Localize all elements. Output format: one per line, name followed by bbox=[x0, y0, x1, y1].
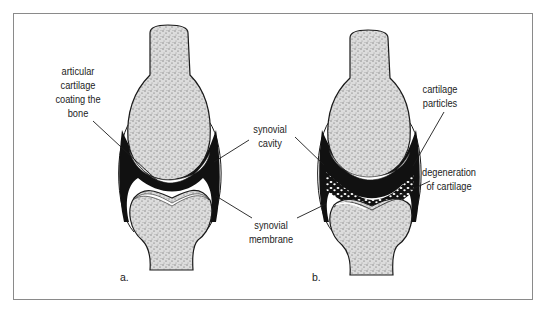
label-line: cartilage bbox=[50, 78, 106, 92]
label-line: synovial bbox=[242, 122, 298, 136]
joint-a bbox=[117, 25, 221, 270]
label-synovial-membrane: synovial membrane bbox=[240, 218, 302, 246]
label-line: articular bbox=[50, 64, 106, 78]
leader-cartilage-particles bbox=[413, 112, 444, 166]
upper-bone-a bbox=[128, 25, 211, 180]
joint-b bbox=[318, 30, 422, 275]
label-line: cavity bbox=[242, 136, 298, 150]
label-line: membrane bbox=[240, 232, 302, 246]
label-cartilage-particles: cartilage particles bbox=[412, 82, 468, 110]
label-line: particles bbox=[412, 96, 468, 110]
label-line: degeneration bbox=[411, 165, 487, 179]
label-line: cartilage bbox=[412, 82, 468, 96]
leader-synovial-membrane-a bbox=[216, 196, 252, 218]
panel-letter-b: b. bbox=[312, 271, 321, 283]
label-articular-cartilage: articular cartilage coating the bone bbox=[50, 64, 106, 120]
upper-bone-b bbox=[328, 30, 411, 178]
label-line: coating the bbox=[50, 92, 106, 106]
label-line: of cartilage bbox=[411, 179, 487, 193]
label-degeneration: degeneration of cartilage bbox=[411, 165, 487, 193]
panel-letter-a: a. bbox=[120, 271, 129, 283]
joint-illustration bbox=[0, 0, 547, 311]
lower-bone-b bbox=[330, 199, 412, 275]
label-synovial-cavity: synovial cavity bbox=[242, 122, 298, 150]
label-line: synovial bbox=[240, 218, 302, 232]
label-line: bone bbox=[50, 106, 106, 120]
leader-synovial-membrane-b bbox=[297, 204, 326, 218]
